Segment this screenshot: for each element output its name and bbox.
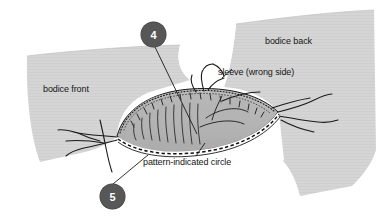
sewing-diagram-figure: bodice front bodice back sleeve (wrong s… xyxy=(0,0,385,221)
label-bodice-back: bodice back xyxy=(265,36,312,47)
callout-badge-5: 5 xyxy=(100,184,125,209)
label-sleeve-wrong-side: sleeve (wrong side) xyxy=(218,67,294,78)
label-pattern-indicated-circle: pattern-indicated circle xyxy=(143,157,231,168)
diagram-canvas xyxy=(0,0,385,221)
callout-badge-4: 4 xyxy=(141,22,166,47)
label-bodice-front: bodice front xyxy=(43,84,89,95)
